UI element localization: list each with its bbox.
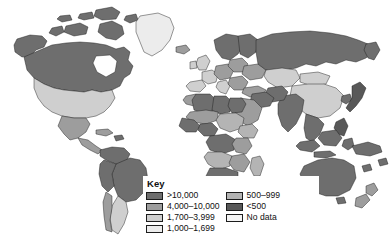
legend-item-label: >10,000 <box>167 191 198 200</box>
world-choropleth-figure: Key >10,000 4,000–10,000 1,700–3,999 1, <box>0 0 390 249</box>
region-tasmania <box>336 197 346 204</box>
legend-column-right: 500–999 <500 No data <box>226 190 280 234</box>
legend-column-left: >10,000 4,000–10,000 1,700–3,999 1,000–1… <box>146 190 220 234</box>
legend-item: <500 <box>226 201 280 212</box>
swatch-500-999 <box>226 192 243 200</box>
legend-item: 500–999 <box>226 190 280 201</box>
legend-item-label: 4,000–10,000 <box>167 202 220 211</box>
region-ireland <box>190 61 197 69</box>
swatch-1700-3999 <box>146 214 163 222</box>
legend-item: 4,000–10,000 <box>146 201 220 212</box>
legend-item-label: 1,700–3,999 <box>167 213 215 222</box>
legend-item-label: No data <box>247 213 277 222</box>
swatch-4000-10000 <box>146 203 163 211</box>
legend-item: 1,000–1,699 <box>146 223 220 234</box>
legend-item-label: 500–999 <box>247 191 280 200</box>
legend-item-label: <500 <box>247 202 266 211</box>
legend-item: No data <box>226 212 280 223</box>
swatch-gt-10000 <box>146 192 163 200</box>
map-legend: Key >10,000 4,000–10,000 1,700–3,999 1, <box>143 176 319 237</box>
swatch-lt-500 <box>226 203 243 211</box>
swatch-1000-1699 <box>146 225 163 233</box>
legend-item: 1,700–3,999 <box>146 212 220 223</box>
legend-title: Key <box>147 178 316 189</box>
legend-item: >10,000 <box>146 190 220 201</box>
swatch-no-data <box>226 214 243 222</box>
legend-item-label: 1,000–1,699 <box>167 224 215 233</box>
legend-columns: >10,000 4,000–10,000 1,700–3,999 1,000–1… <box>146 190 316 234</box>
